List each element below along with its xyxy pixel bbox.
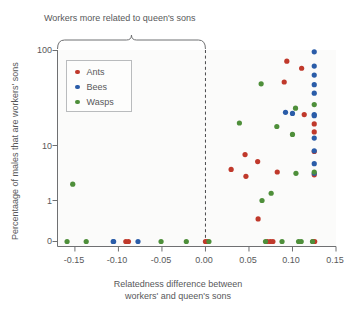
data-point-ants	[299, 66, 304, 71]
data-point-ants	[282, 79, 287, 84]
data-point-bees	[312, 49, 317, 54]
data-point-wasps	[64, 239, 69, 244]
data-point-wasps	[184, 239, 189, 244]
data-point-ants	[242, 152, 247, 157]
data-point-ants	[270, 239, 275, 244]
data-point-wasps	[237, 120, 242, 125]
data-point-wasps	[269, 191, 274, 196]
data-point-bees	[312, 63, 317, 68]
axis-ticks	[53, 51, 337, 252]
annotation-brace	[58, 35, 206, 49]
data-point-ants	[126, 239, 131, 244]
scatter-chart-figure: Workers more related to queen's sons Per…	[0, 0, 356, 314]
data-point-bees	[312, 82, 317, 87]
data-point-bees	[312, 161, 317, 166]
data-point-ants	[255, 159, 260, 164]
data-point-bees	[135, 239, 140, 244]
data-point-bees	[111, 239, 116, 244]
data-point-wasps	[274, 124, 279, 129]
data-point-wasps	[312, 169, 317, 174]
data-points	[64, 49, 317, 244]
data-point-ants	[302, 112, 307, 117]
data-point-bees	[290, 111, 295, 116]
data-point-wasps	[263, 239, 268, 244]
data-point-bees	[312, 91, 317, 96]
data-point-bees	[283, 110, 288, 115]
data-point-wasps	[259, 198, 264, 203]
data-point-wasps	[293, 106, 298, 111]
data-point-wasps	[206, 239, 211, 244]
data-point-bees	[312, 113, 317, 118]
data-point-wasps	[158, 239, 163, 244]
data-point-wasps	[259, 81, 264, 86]
data-point-ants	[256, 216, 261, 221]
data-point-ants	[312, 129, 317, 134]
axis-frame	[58, 50, 337, 247]
data-point-wasps	[299, 239, 304, 244]
data-point-wasps	[290, 132, 295, 137]
data-point-ants	[312, 121, 317, 126]
data-point-wasps	[312, 102, 317, 107]
data-point-bees	[312, 72, 317, 77]
data-point-wasps	[293, 171, 298, 176]
data-point-ants	[243, 174, 248, 179]
data-point-ants	[275, 169, 280, 174]
data-point-wasps	[84, 239, 89, 244]
data-point-bees	[312, 148, 317, 153]
data-point-ants	[229, 167, 234, 172]
data-point-bees	[312, 135, 317, 140]
chart-canvas	[0, 0, 356, 314]
data-point-ants	[284, 59, 289, 64]
data-point-wasps	[279, 239, 284, 244]
data-point-wasps	[310, 239, 315, 244]
data-point-wasps	[70, 182, 75, 187]
